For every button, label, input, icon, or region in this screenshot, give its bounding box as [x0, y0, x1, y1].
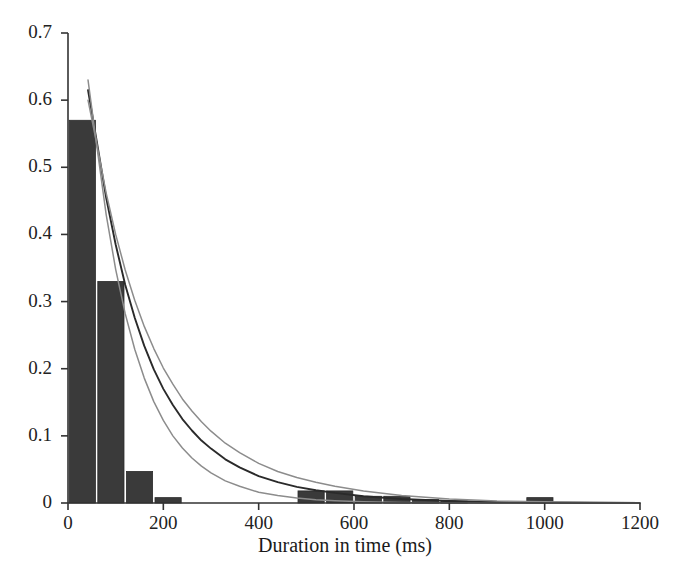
y-tick-label: 0.7: [0, 21, 52, 43]
histogram-bar: [126, 471, 152, 503]
histogram-bar: [98, 281, 124, 503]
x-tick-label: 1000: [495, 512, 595, 534]
y-tick-label: 0.4: [0, 222, 52, 244]
fit-curve: [88, 80, 640, 503]
y-tick-label: 0.3: [0, 290, 52, 312]
x-tick-label: 800: [399, 512, 499, 534]
x-axis-ticks: [68, 503, 640, 510]
x-tick-label: 600: [304, 512, 404, 534]
y-tick-label: 0.5: [0, 155, 52, 177]
fit-curve: [88, 90, 640, 503]
chart-figure: 00.10.20.30.40.50.60.7 02004006008001000…: [0, 0, 690, 588]
y-axis-ticks: [61, 33, 68, 503]
y-tick-label: 0.2: [0, 357, 52, 379]
y-tick-label: 0.1: [0, 424, 52, 446]
histogram-bars: [69, 120, 553, 503]
plot-area: [0, 0, 690, 588]
axes: [61, 33, 640, 510]
fit-curves: [88, 80, 640, 503]
x-tick-label: 200: [113, 512, 213, 534]
x-tick-label: 400: [209, 512, 309, 534]
y-tick-label: 0.6: [0, 88, 52, 110]
y-tick-label: 0: [0, 491, 52, 513]
histogram-bar: [298, 491, 324, 503]
histogram-bar: [69, 120, 95, 503]
x-tick-label: 0: [18, 512, 118, 534]
x-axis-title: Duration in time (ms): [0, 534, 690, 557]
fit-curve: [88, 100, 640, 503]
x-tick-label: 1200: [590, 512, 690, 534]
histogram-bar: [155, 498, 181, 503]
